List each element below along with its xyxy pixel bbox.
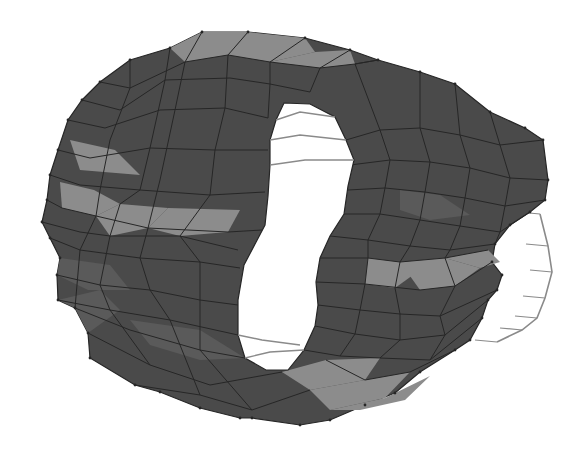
mesh-node bbox=[159, 391, 162, 394]
mesh-node bbox=[509, 224, 512, 227]
wireframe-line bbox=[497, 214, 552, 342]
mesh-node bbox=[134, 384, 137, 387]
mesh-node bbox=[329, 419, 332, 422]
mesh-node bbox=[487, 299, 490, 302]
mesh-node bbox=[251, 417, 254, 420]
mesh-node bbox=[547, 179, 550, 182]
wireframe-line bbox=[515, 316, 537, 318]
wireframe-line bbox=[526, 244, 548, 246]
mesh-node bbox=[496, 289, 499, 292]
mesh-node bbox=[377, 59, 380, 62]
mesh-node bbox=[46, 199, 49, 202]
mesh-node bbox=[41, 221, 44, 224]
mesh-node bbox=[239, 417, 242, 420]
wireframe-line bbox=[530, 270, 552, 272]
mesh-node bbox=[67, 119, 70, 122]
mesh-node bbox=[419, 371, 422, 374]
mesh-node bbox=[247, 31, 250, 34]
mesh-node bbox=[454, 83, 457, 86]
mesh-node bbox=[419, 71, 422, 74]
mesh-node bbox=[544, 199, 547, 202]
mesh-node bbox=[542, 139, 545, 142]
mesh-node bbox=[74, 307, 77, 310]
mesh-node bbox=[129, 59, 132, 62]
mesh-node bbox=[87, 332, 90, 335]
mesh-node bbox=[57, 149, 60, 152]
mesh-node bbox=[59, 257, 62, 260]
mesh-node bbox=[169, 47, 172, 50]
mesh-node bbox=[299, 424, 302, 427]
mesh-node bbox=[89, 357, 92, 360]
mesh-node bbox=[349, 49, 352, 52]
mesh-node bbox=[199, 407, 202, 410]
mesh-node bbox=[304, 37, 307, 40]
mesh-node bbox=[201, 31, 204, 34]
mesh-node bbox=[57, 299, 60, 302]
mesh-node bbox=[489, 111, 492, 114]
mesh-node bbox=[494, 243, 497, 246]
mesh-node bbox=[491, 261, 494, 264]
mesh-node bbox=[49, 174, 52, 177]
mesh-node bbox=[469, 339, 472, 342]
wireframe-line bbox=[475, 340, 497, 342]
mesh-node bbox=[81, 99, 84, 102]
cylinder-mesh-figure bbox=[0, 0, 574, 461]
deformed-cylinder-mesh bbox=[0, 0, 574, 461]
mesh-node bbox=[481, 317, 484, 320]
mesh-node bbox=[364, 404, 367, 407]
mesh-node bbox=[99, 81, 102, 84]
mesh-node bbox=[454, 349, 457, 352]
mesh-node bbox=[56, 274, 59, 277]
mesh-node bbox=[501, 274, 504, 277]
wireframe-line bbox=[523, 296, 545, 298]
mesh-node bbox=[524, 127, 527, 130]
mesh-node bbox=[394, 392, 397, 395]
mesh-node bbox=[49, 237, 52, 240]
wireframe-line bbox=[500, 328, 522, 330]
mesh-node bbox=[529, 211, 532, 214]
